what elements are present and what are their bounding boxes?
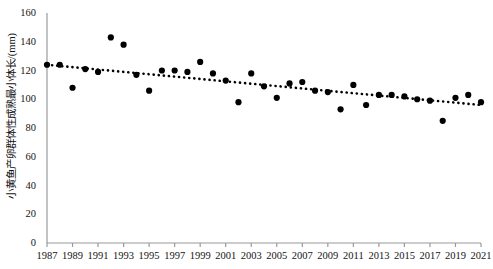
data-point (146, 88, 152, 94)
data-point (389, 92, 395, 98)
data-point (350, 82, 356, 88)
data-point (172, 67, 178, 73)
data-point (82, 66, 88, 72)
data-point (274, 95, 280, 101)
data-point (299, 79, 305, 85)
data-point (120, 42, 126, 48)
data-point (159, 67, 165, 73)
data-point (108, 34, 114, 40)
y-tick-label: 140 (10, 36, 36, 47)
data-point (440, 118, 446, 124)
y-tick-label: 0 (10, 237, 36, 248)
data-point (57, 62, 63, 68)
data-point (223, 77, 229, 83)
y-tick-label: 60 (10, 151, 36, 162)
data-point (197, 59, 203, 65)
data-point (452, 95, 458, 101)
chart-figure: 小黄鱼产卵群体性成熟最小体长/(mm) 02040608010012014016… (0, 0, 493, 269)
data-point (312, 88, 318, 94)
y-tick-label: 120 (10, 65, 36, 76)
data-point (337, 106, 343, 112)
data-point (248, 70, 254, 76)
data-point (427, 98, 433, 104)
data-point (286, 80, 292, 86)
plot-axes (47, 13, 481, 243)
data-point (184, 69, 190, 75)
data-points (44, 34, 484, 124)
data-point (363, 102, 369, 108)
data-point (414, 96, 420, 102)
data-point (325, 89, 331, 95)
data-point (478, 99, 484, 105)
data-point (210, 70, 216, 76)
y-tick-label: 40 (10, 180, 36, 191)
data-point (95, 69, 101, 75)
y-tick-label: 20 (10, 208, 36, 219)
data-point (133, 72, 139, 78)
scatter-plot-canvas (0, 0, 493, 269)
x-tick-label: 2021 (464, 250, 493, 261)
y-tick-label: 100 (10, 93, 36, 104)
data-point (261, 83, 267, 89)
data-point (44, 62, 50, 68)
data-point (235, 99, 241, 105)
y-tick-label: 160 (10, 7, 36, 18)
data-point (401, 93, 407, 99)
y-tick-label: 80 (10, 122, 36, 133)
data-point (69, 85, 75, 91)
x-axis-ticks (47, 243, 481, 247)
data-point (465, 92, 471, 98)
data-point (376, 92, 382, 98)
